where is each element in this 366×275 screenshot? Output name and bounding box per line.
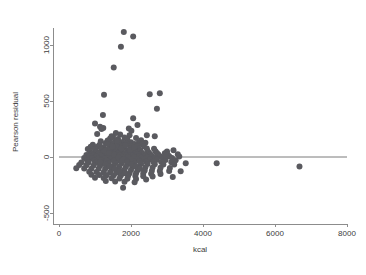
data-point	[130, 34, 136, 40]
x-tick-label: 0	[57, 229, 62, 238]
data-point	[170, 174, 176, 180]
data-point	[120, 185, 126, 191]
y-axis-title: Pearson residual	[11, 92, 20, 152]
data-point	[152, 133, 158, 139]
data-point	[183, 160, 189, 166]
data-point	[154, 106, 160, 112]
data-point	[131, 144, 137, 150]
data-point	[121, 29, 127, 35]
x-tick-label: 8000	[338, 229, 356, 238]
y-axis-ticks: -50005001000	[42, 36, 54, 221]
y-tick-label: 1000	[42, 36, 51, 54]
data-point	[122, 179, 128, 185]
data-point	[112, 178, 118, 184]
axes-group	[53, 28, 347, 224]
data-point	[137, 166, 143, 172]
data-point	[101, 92, 107, 98]
data-point	[157, 90, 163, 96]
data-point	[143, 176, 149, 182]
data-point	[134, 122, 140, 128]
data-point	[126, 125, 132, 131]
data-point	[118, 44, 124, 50]
data-point	[158, 171, 164, 177]
data-point	[113, 130, 119, 136]
x-axis-title: kcal	[193, 245, 207, 254]
data-point	[214, 160, 220, 166]
data-point	[114, 138, 120, 144]
data-point	[163, 152, 169, 158]
x-tick-label: 4000	[194, 229, 212, 238]
data-point	[166, 168, 172, 174]
data-point	[92, 120, 98, 126]
data-point	[296, 164, 302, 170]
data-point	[178, 168, 184, 174]
y-tick-label: 500	[42, 94, 51, 108]
data-point	[144, 132, 150, 138]
data-point	[147, 91, 153, 97]
scatter-plot-figure: 02000400060008000 -50005001000 kcal Pear…	[0, 0, 366, 275]
data-point	[111, 64, 117, 70]
x-tick-label: 6000	[266, 229, 284, 238]
data-point	[150, 173, 156, 179]
data-point	[94, 131, 100, 137]
data-point	[130, 115, 136, 121]
y-tick-label: -500	[42, 204, 51, 221]
y-tick-label: 0	[42, 154, 51, 159]
x-tick-label: 2000	[122, 229, 140, 238]
data-point	[110, 143, 116, 149]
data-points-group	[73, 29, 302, 191]
data-point	[81, 165, 87, 171]
data-point	[132, 179, 138, 185]
data-point	[100, 112, 106, 118]
data-point	[122, 170, 128, 176]
data-point	[175, 151, 181, 157]
x-axis-ticks: 02000400060008000	[57, 224, 357, 238]
data-point	[92, 175, 98, 181]
data-point	[123, 142, 129, 148]
data-point	[73, 165, 79, 171]
data-point	[98, 126, 104, 132]
plot-canvas: 02000400060008000 -50005001000 kcal Pear…	[0, 0, 366, 275]
data-point	[103, 178, 109, 184]
